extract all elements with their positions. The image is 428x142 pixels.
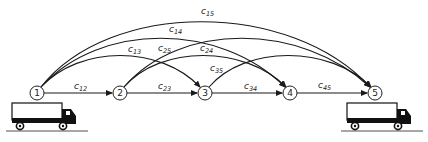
label-c15: c15 bbox=[201, 6, 214, 18]
svg-text:5: 5 bbox=[372, 88, 378, 98]
svg-text:2: 2 bbox=[117, 88, 123, 98]
node-2: 2 bbox=[113, 86, 127, 100]
edge-3-5 bbox=[209, 56, 371, 88]
svg-text:3: 3 bbox=[202, 88, 208, 98]
label-c23: c23 bbox=[158, 81, 171, 93]
node-3: 3 bbox=[198, 86, 212, 100]
label-c13: c13 bbox=[128, 44, 141, 56]
svg-text:4: 4 bbox=[287, 88, 293, 98]
truck-icon bbox=[341, 103, 423, 131]
label-c14: c14 bbox=[169, 24, 182, 36]
label-c12: c12 bbox=[74, 81, 87, 93]
svg-text:1: 1 bbox=[34, 88, 40, 98]
edge-2-4 bbox=[124, 56, 286, 88]
node-1: 1 bbox=[30, 86, 44, 100]
node-4: 4 bbox=[283, 86, 297, 100]
edge-1-3 bbox=[41, 56, 200, 88]
label-c35: c35 bbox=[210, 63, 223, 75]
node-5: 5 bbox=[368, 86, 382, 100]
label-c25: c25 bbox=[158, 43, 171, 55]
label-c34: c34 bbox=[244, 81, 257, 93]
truck-icon bbox=[6, 103, 88, 131]
network-diagram: 1 2 3 4 5 c12 c23 c34 c45 c13 c25 c14 c2… bbox=[0, 0, 428, 142]
label-c45: c45 bbox=[318, 80, 331, 92]
